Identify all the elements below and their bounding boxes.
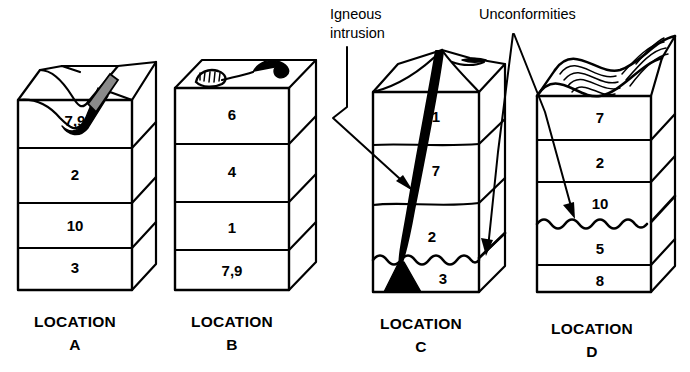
location-c-label-line1: LOCATION	[380, 315, 462, 332]
location-d-unconformity-side	[651, 196, 675, 222]
location-b-fossil-coil	[253, 60, 289, 77]
location-c-unconformity-side	[479, 233, 505, 258]
location-b-side-bed-2	[289, 174, 316, 202]
location-b-layer-label: 1	[228, 219, 236, 236]
location-d-label-line2: D	[586, 343, 598, 360]
location-c-layer-label: 3	[439, 270, 447, 287]
location-d-side-bed-3	[651, 239, 675, 265]
location-c-layer-label: 2	[428, 228, 436, 245]
igneous-intrusion-label-line2: intrusion	[330, 25, 385, 41]
location-d-top-hatching	[560, 38, 668, 95]
location-d-layer-label: 5	[596, 240, 604, 257]
unconformities-label: Unconformities	[479, 6, 576, 22]
location-c-block: 1 7 2 3 LOCATION C	[373, 50, 505, 355]
location-d-layer-label: 10	[592, 195, 609, 212]
location-b-block: 6 4 1 7,9 LOCATION B	[175, 60, 316, 353]
location-a-top-right-edge	[132, 62, 156, 100]
location-d-block: 7 2 10 5 8 LOCATION D	[537, 36, 675, 360]
location-d-right-corner-edge	[651, 58, 662, 96]
location-b-label-line1: LOCATION	[191, 313, 273, 330]
location-b-side-bed-3	[289, 222, 316, 250]
location-b-label-line2: B	[226, 336, 238, 353]
location-c-label-line2: C	[415, 338, 427, 355]
location-d-label-line1: LOCATION	[551, 320, 633, 337]
location-b-side-bed-1	[289, 116, 316, 144]
location-d-layer-label: 8	[596, 272, 604, 289]
unconformities-leader-left	[481, 34, 513, 256]
location-c-side-bed-2	[479, 178, 505, 203]
location-d-side-bed-2	[651, 156, 675, 182]
location-b-layer-label: 7,9	[222, 262, 243, 279]
location-a-block: 7,9 2 10 3 LOCATION A	[18, 62, 156, 353]
location-a-label-line1: LOCATION	[34, 313, 116, 330]
location-d-top-wavy-front	[537, 58, 662, 96]
location-c-right-face-edge	[479, 64, 505, 292]
location-a-layer-label: 7,9	[65, 112, 86, 129]
location-b-layer-label: 4	[228, 163, 237, 180]
location-d-layer-label: 2	[596, 154, 604, 171]
location-b-layer-label: 6	[228, 106, 236, 123]
location-c-top-dike-outcrop	[462, 59, 486, 63]
igneous-intrusion-label-line1: Igneous	[330, 6, 382, 22]
location-a-label-line2: A	[69, 336, 81, 353]
location-d-layer-label: 7	[596, 109, 604, 126]
diagram-canvas: 7,9 2 10 3 LOCATION A 6 4 1 7,9 LOCATION…	[0, 0, 690, 372]
location-c-layer-label: 7	[432, 162, 440, 179]
location-a-layer-label: 3	[71, 259, 79, 276]
location-c-layer-label: 1	[432, 108, 440, 125]
location-a-side-bed-2	[132, 177, 156, 203]
location-a-layer-label: 10	[67, 217, 84, 234]
location-b-right-face-edge	[289, 60, 316, 290]
location-a-layer-label: 2	[71, 166, 79, 183]
location-b-fossil-tail	[222, 72, 253, 80]
location-a-side-bed-1	[132, 122, 156, 148]
location-d-side-bed-1	[651, 114, 675, 140]
location-a-side-bed-3	[132, 222, 156, 248]
geologic-block-diagram: 7,9 2 10 3 LOCATION A 6 4 1 7,9 LOCATION…	[0, 0, 690, 372]
